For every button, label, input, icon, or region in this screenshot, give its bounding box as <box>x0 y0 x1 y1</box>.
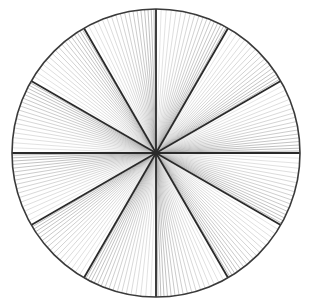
center-hub <box>154 151 158 155</box>
fine-line <box>52 53 156 153</box>
fine-line <box>56 153 156 257</box>
fine-line <box>156 49 256 153</box>
fine-line <box>156 153 247 265</box>
fine-line <box>21 102 156 153</box>
fine-line <box>156 153 272 238</box>
fine-line <box>156 62 268 153</box>
sector-wheel-diagram <box>0 0 309 300</box>
fine-line <box>40 68 156 153</box>
fine-line <box>65 41 156 153</box>
fine-line <box>156 153 260 253</box>
fine-line <box>156 18 207 153</box>
fine-line <box>105 153 156 288</box>
fine-line <box>156 37 241 153</box>
fine-line <box>44 153 156 244</box>
fine-line <box>156 153 291 204</box>
fine-line <box>71 153 156 269</box>
